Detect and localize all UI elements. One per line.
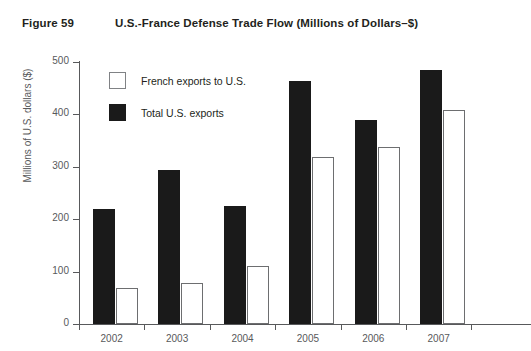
- chart-legend: French exports to U.S.Total U.S. exports: [109, 72, 246, 136]
- x-axis-tick: [79, 324, 80, 330]
- x-axis-tick-label: 2007: [406, 333, 472, 344]
- x-axis-tick-label: 2005: [275, 333, 341, 344]
- bar-total-us-exports: [420, 70, 442, 324]
- bar-french-exports-to-us: [443, 110, 465, 324]
- x-axis-tick-label: 2004: [210, 333, 276, 344]
- legend-swatch-white: [109, 72, 126, 89]
- bar-french-exports-to-us: [116, 288, 138, 324]
- legend-item: Total U.S. exports: [109, 104, 246, 121]
- x-axis-tick: [275, 324, 276, 330]
- y-axis-tick-label: 200: [9, 212, 69, 223]
- bar-total-us-exports: [289, 81, 311, 324]
- y-axis-tick-label: 100: [9, 265, 69, 276]
- x-axis-tick: [144, 324, 145, 330]
- x-axis-tick-label: 2002: [79, 333, 145, 344]
- y-axis-tick-label: 300: [9, 160, 69, 171]
- bar-french-exports-to-us: [312, 157, 334, 324]
- bar-total-us-exports: [93, 209, 115, 324]
- y-axis-tick-label: 400: [9, 107, 69, 118]
- x-axis-tick: [406, 324, 407, 330]
- legend-swatch-black: [109, 104, 126, 121]
- x-axis-tick-label: 2006: [340, 333, 406, 344]
- x-axis-tick: [471, 324, 472, 330]
- legend-label: Total U.S. exports: [141, 107, 224, 119]
- bar-total-us-exports: [355, 120, 377, 324]
- y-axis-tick-label: 0: [9, 317, 69, 328]
- bar-total-us-exports: [158, 170, 180, 324]
- legend-label: French exports to U.S.: [141, 75, 246, 87]
- y-axis-tick-label: 500: [9, 55, 69, 66]
- bar-french-exports-to-us: [378, 147, 400, 324]
- x-axis-tick: [210, 324, 211, 330]
- x-axis-tick-label: 2003: [144, 333, 210, 344]
- x-axis-line: [79, 324, 531, 325]
- bar-total-us-exports: [224, 206, 246, 324]
- x-axis-tick: [341, 324, 342, 330]
- bar-french-exports-to-us: [247, 266, 269, 324]
- legend-item: French exports to U.S.: [109, 72, 246, 89]
- bar-chart: Millions of U.S. dollars ($) 01002003004…: [0, 0, 531, 351]
- bar-french-exports-to-us: [181, 283, 203, 324]
